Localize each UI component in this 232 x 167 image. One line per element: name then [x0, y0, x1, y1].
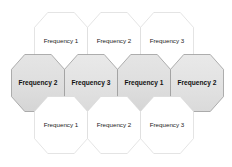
hexagon-cell-label: Frequency 1 [124, 79, 163, 87]
hexagon-grid-svg: Frequency 1Frequency 2Frequency 3Frequen… [0, 0, 232, 167]
hexagon-cell-layer: Frequency 1Frequency 2Frequency 3Frequen… [12, 13, 224, 154]
hexagon-cell[interactable]: Frequency 3 [141, 97, 194, 154]
hexagon-cell-label: Frequency 3 [150, 121, 185, 128]
hexagon-cell-label: Frequency 2 [18, 79, 57, 87]
hexagon-cell-label: Frequency 3 [150, 37, 185, 44]
hexagon-cell[interactable]: Frequency 1 [35, 97, 88, 154]
frequency-reuse-diagram: Frequency 1Frequency 2Frequency 3Frequen… [0, 0, 232, 167]
hexagon-cell-label: Frequency 1 [44, 121, 79, 128]
hexagon-cell[interactable]: Frequency 2 [88, 97, 141, 154]
hexagon-cell-label: Frequency 1 [44, 37, 79, 44]
hexagon-cell-label: Frequency 2 [97, 121, 132, 128]
hexagon-cell-label: Frequency 2 [97, 37, 132, 44]
hexagon-cell-label: Frequency 3 [71, 79, 110, 87]
hexagon-cell-label: Frequency 2 [177, 79, 216, 87]
